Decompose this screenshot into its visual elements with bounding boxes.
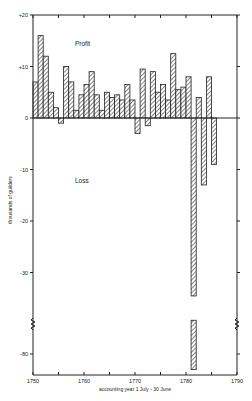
bar-1759 — [79, 95, 84, 118]
y-tick-label: +10 — [19, 64, 28, 70]
y-tick-label: -20 — [20, 218, 28, 224]
bar-1775 — [161, 85, 166, 118]
bar-1750 — [33, 82, 38, 118]
bar-1781-upper — [191, 118, 196, 296]
bar-1781-lower — [191, 320, 196, 369]
bar-1753 — [48, 92, 53, 118]
y-tick-label: -30 — [20, 270, 28, 276]
x-axis-label: accounting year 1 July - 30 June — [99, 386, 171, 392]
bar-1758 — [74, 110, 79, 118]
bar-1784 — [206, 77, 211, 118]
bar-1783 — [201, 118, 206, 185]
bar-1776 — [166, 100, 171, 118]
bar-1774 — [155, 92, 160, 118]
y-tick-label: -10 — [20, 167, 28, 173]
bar-1778 — [176, 90, 181, 118]
bar-1772 — [145, 118, 150, 126]
bar-1761 — [89, 72, 94, 118]
bar-1764 — [104, 92, 109, 118]
x-tick-label: 1790 — [231, 378, 243, 384]
bar-1771 — [140, 69, 145, 118]
y-tick-label: +20 — [19, 12, 28, 18]
bar-1780 — [186, 77, 191, 118]
bar-1755 — [59, 118, 64, 123]
bar-1754 — [53, 108, 58, 118]
x-tick-label: 1760 — [78, 378, 90, 384]
bar-1770 — [135, 118, 140, 133]
bar-1779 — [181, 87, 186, 118]
bar-1785 — [212, 118, 217, 164]
y-tick-label: 0 — [25, 115, 28, 121]
bar-1768 — [125, 85, 130, 118]
bar-1765 — [110, 97, 115, 118]
x-tick-label: 1780 — [180, 378, 192, 384]
loss-annotation: Loss — [75, 177, 89, 184]
bar-1773 — [150, 72, 155, 118]
bar-1751 — [38, 36, 43, 118]
profit-annotation: Profit — [75, 40, 90, 47]
bar-1756 — [64, 67, 69, 119]
bar-1760 — [84, 85, 89, 118]
bar-1763 — [99, 110, 104, 118]
x-tick-label: 1770 — [129, 378, 141, 384]
y-axis-label: thousands of guilders — [7, 176, 13, 224]
bars-group — [33, 36, 217, 370]
bar-1762 — [94, 95, 99, 118]
bar-1782 — [196, 97, 201, 118]
x-tick-label: 1750 — [27, 378, 39, 384]
bar-1757 — [69, 82, 74, 118]
bar-1752 — [43, 56, 48, 118]
y-tick-label: -80 — [20, 351, 28, 357]
bar-1769 — [130, 100, 135, 118]
bar-1766 — [115, 95, 120, 118]
bar-1767 — [120, 100, 125, 118]
bar-1777 — [171, 54, 176, 118]
profit-loss-bar-chart: +20+100-10-20-30-8017501760177017801790P… — [0, 0, 252, 401]
